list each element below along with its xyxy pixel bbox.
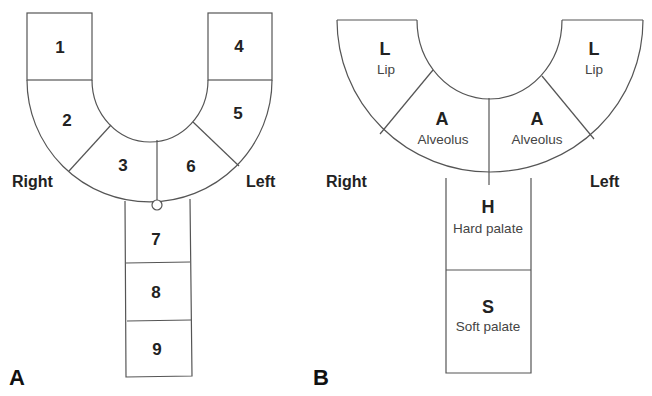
hard-palate-code: H: [482, 197, 495, 217]
right-label-b: Right: [326, 173, 368, 190]
cleft-classification-diagram: 1 2 3 4 5 6 7 8 9 Right Left A L Lip A A…: [0, 0, 652, 396]
divider-lip-alveolus-left: [542, 76, 594, 139]
alveolus-right-code: A: [436, 109, 449, 129]
alveolus-left-name: Alveolus: [511, 132, 562, 147]
left-label-b: Left: [590, 173, 620, 190]
divider-2-3: [69, 125, 111, 171]
outer-arc-a: [27, 80, 272, 202]
divider-lip-alveolus-right: [380, 70, 433, 134]
right-label-a: Right: [12, 173, 54, 190]
inner-arc-b: [417, 20, 562, 99]
segment-5-label: 5: [233, 104, 242, 123]
inner-arc-a: [92, 80, 208, 142]
segment-7-label: 7: [151, 230, 160, 249]
lip-right-name: Lip: [377, 62, 395, 77]
segment-4-label: 4: [234, 37, 244, 56]
lip-right-code: L: [380, 39, 391, 59]
panel-a: 1 2 3 4 5 6 7 8 9 Right Left A: [9, 13, 276, 390]
incisive-foramen-icon: [152, 200, 162, 210]
segment-9-label: 9: [152, 340, 161, 359]
panel-b: L Lip A Alveolus A Alveolus L Lip H Hard…: [313, 20, 643, 390]
left-label-a: Left: [246, 173, 276, 190]
segment-8-label: 8: [151, 283, 160, 302]
divider-8-9: [127, 320, 191, 321]
panel-a-label: A: [9, 365, 25, 390]
segment-2-label: 2: [62, 111, 71, 130]
soft-palate-name: Soft palate: [456, 319, 521, 334]
alveolus-left-code: A: [531, 109, 544, 129]
soft-palate-code: S: [482, 297, 494, 317]
segment-3-label: 3: [118, 156, 127, 175]
panel-b-label: B: [313, 365, 329, 390]
divider-7-8: [126, 262, 190, 263]
alveolus-right-name: Alveolus: [417, 132, 468, 147]
segment-6-label: 6: [186, 157, 195, 176]
divider-5-6: [193, 122, 239, 166]
lip-left-code: L: [589, 39, 600, 59]
hard-palate-name: Hard palate: [453, 221, 523, 236]
lip-left-name: Lip: [585, 62, 603, 77]
segment-1-label: 1: [55, 38, 64, 57]
